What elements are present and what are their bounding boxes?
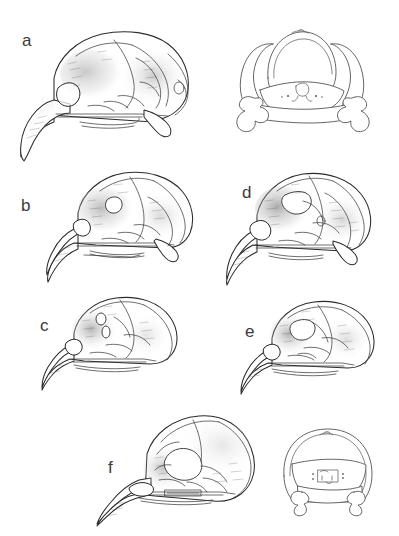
panel-c-skull-lateral	[40, 287, 190, 391]
figure-plate: a	[0, 0, 399, 536]
panel-label-a: a	[22, 32, 31, 49]
panel-b-skull-lateral	[44, 163, 204, 287]
panel-f-skull-lateral	[95, 408, 265, 528]
panel-a-skull-caudal	[218, 18, 384, 146]
panel-label-d: d	[242, 184, 251, 201]
panel-label-b: b	[21, 197, 30, 214]
panel-e-skull-lateral	[240, 292, 388, 394]
panel-label-c: c	[40, 317, 49, 334]
panel-label-f: f	[108, 459, 113, 476]
panel-f-skull-caudal	[276, 420, 380, 516]
panel-label-e: e	[245, 323, 254, 340]
panel-a-skull-lateral	[18, 18, 208, 170]
